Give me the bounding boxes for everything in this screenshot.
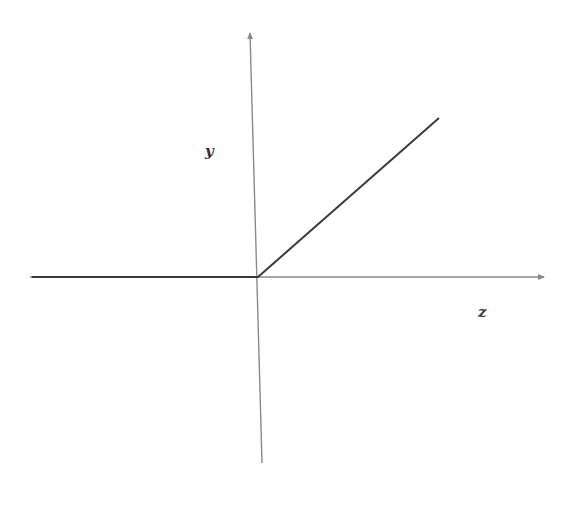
relu-chart: y z <box>0 0 567 514</box>
relu-curve <box>32 118 439 277</box>
y-axis <box>250 33 262 463</box>
y-axis-label: y <box>204 142 215 160</box>
x-axis-label: z <box>477 303 487 321</box>
